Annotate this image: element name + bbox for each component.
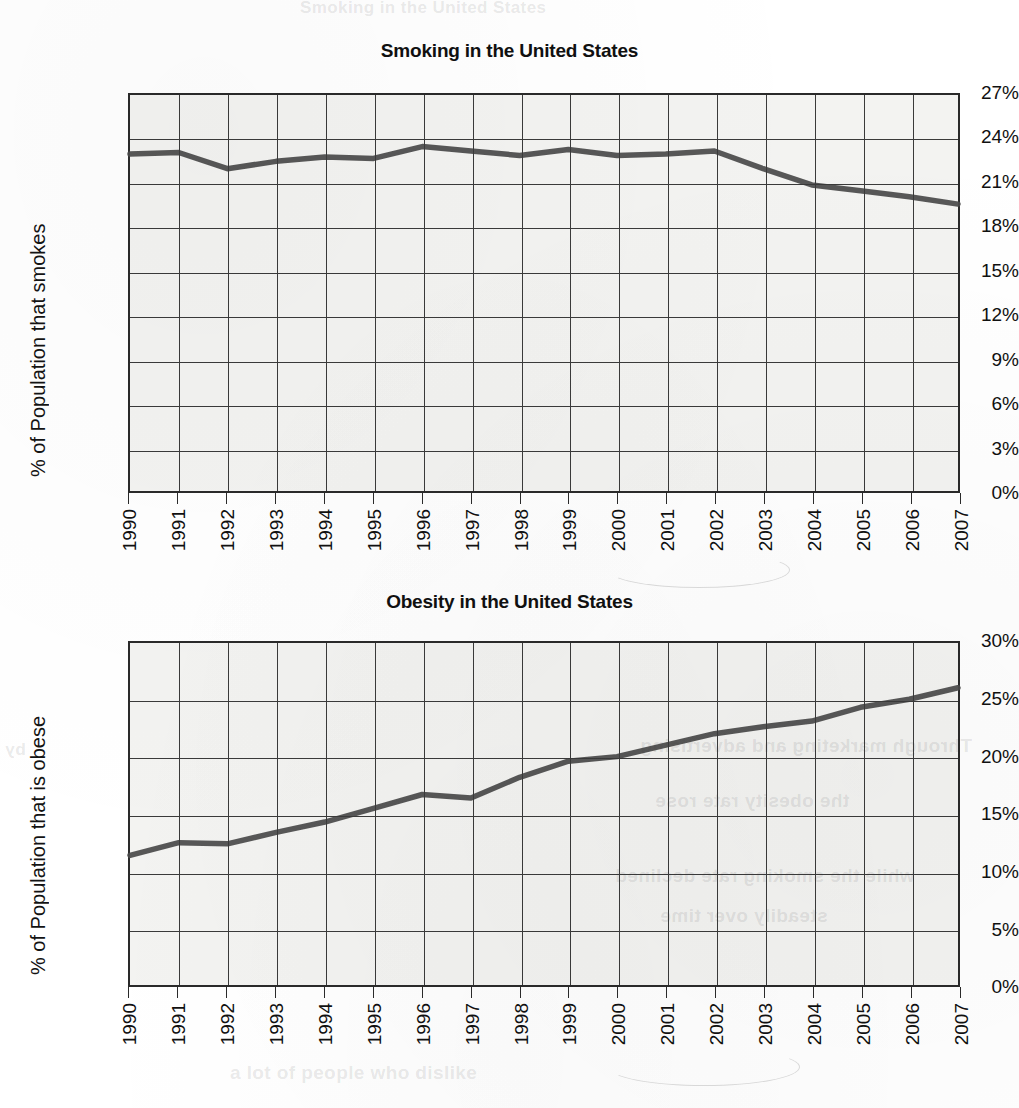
xtick-label: 1999	[559, 1003, 581, 1045]
gridline-vertical	[179, 643, 180, 985]
xtick-label: 2005	[853, 509, 875, 551]
xtick-label: 2000	[608, 509, 630, 551]
xtick-label: 2001	[657, 1003, 679, 1045]
scan-smudge-obesity	[608, 1048, 800, 1086]
x-tickmark	[177, 987, 178, 998]
gridline-vertical	[913, 95, 914, 491]
x-tickmark	[128, 987, 129, 998]
gridline-horizontal	[130, 362, 958, 363]
gridline-vertical	[766, 643, 767, 985]
gridline-vertical	[473, 643, 474, 985]
x-tickmark	[715, 493, 716, 504]
xtick-label: 1991	[168, 509, 190, 551]
gridline-vertical	[473, 95, 474, 491]
x-tickmark	[960, 493, 961, 504]
xtick-label: 2005	[853, 1003, 875, 1045]
gridline-vertical	[522, 643, 523, 985]
xtick-label: 1993	[266, 1003, 288, 1045]
gridline-vertical	[424, 95, 425, 491]
x-tickmark	[275, 987, 276, 998]
x-tickmark	[715, 987, 716, 998]
xtick-label: 1992	[217, 1003, 239, 1045]
gridline-horizontal	[130, 228, 958, 229]
scan-smudge-smoking	[608, 552, 790, 588]
xtick-label: 2002	[706, 509, 728, 551]
xtick-label: 2000	[608, 1003, 630, 1045]
xtick-label: 1997	[462, 509, 484, 551]
gridline-vertical	[375, 643, 376, 985]
y-axis-title-smoking: % of Population that smokes	[27, 190, 50, 510]
gridline-vertical	[668, 95, 669, 491]
xtick-label: 2007	[951, 1003, 973, 1045]
gridline-horizontal	[130, 451, 958, 452]
gridline-vertical	[277, 95, 278, 491]
x-tickmark	[226, 493, 227, 504]
gridline-vertical	[326, 95, 327, 491]
bleedthrough-text-bottom: a lot of people who dislike	[230, 1062, 477, 1084]
gridline-vertical	[228, 95, 229, 491]
x-tickmark	[813, 493, 814, 504]
xtick-label: 1996	[413, 509, 435, 551]
x-tickmark	[373, 987, 374, 998]
gridline-vertical	[668, 643, 669, 985]
x-tickmark	[568, 987, 569, 998]
x-tickmark	[764, 987, 765, 998]
xtick-label: 1998	[511, 509, 533, 551]
chart-title-smoking: Smoking in the United States	[0, 40, 1019, 62]
xtick-label: 2004	[804, 1003, 826, 1045]
x-tickmark	[422, 987, 423, 998]
xtick-label: 1994	[315, 1003, 337, 1045]
x-tickmark	[911, 987, 912, 998]
xtick-label: 1992	[217, 509, 239, 551]
gridline-vertical	[619, 95, 620, 491]
gridline-vertical	[277, 643, 278, 985]
xtick-label: 2006	[902, 509, 924, 551]
x-tickmark	[862, 987, 863, 998]
x-tickmark	[177, 493, 178, 504]
xtick-label: 1994	[315, 509, 337, 551]
xtick-label: 2002	[706, 1003, 728, 1045]
xtick-label: 2001	[657, 509, 679, 551]
xtick-label: 2003	[755, 509, 777, 551]
x-tickmark	[422, 493, 423, 504]
x-tickmark	[960, 987, 961, 998]
bleedthrough-text-left: by	[5, 740, 26, 760]
x-tickmark	[813, 987, 814, 998]
xtick-label: 1990	[119, 1003, 141, 1045]
gridline-vertical	[326, 643, 327, 985]
xtick-label: 1998	[511, 1003, 533, 1045]
x-tickmark	[471, 493, 472, 504]
xtick-label: 1995	[364, 1003, 386, 1045]
series-line-smoking	[130, 95, 958, 493]
xtick-label: 1993	[266, 509, 288, 551]
gridline-horizontal	[130, 139, 958, 140]
x-tickmark	[617, 493, 618, 504]
xtick-label: 1991	[168, 1003, 190, 1045]
gridline-vertical	[375, 95, 376, 491]
plot-area-obesity	[128, 641, 960, 987]
x-tickmark	[666, 987, 667, 998]
x-tickmark	[324, 987, 325, 998]
gridline-vertical	[619, 643, 620, 985]
xtick-label: 1995	[364, 509, 386, 551]
gridline-horizontal	[130, 758, 958, 759]
x-tickmark	[911, 493, 912, 504]
x-tickmark	[128, 493, 129, 504]
x-tickmark	[862, 493, 863, 504]
x-tickmark	[275, 493, 276, 504]
gridline-vertical	[913, 643, 914, 985]
gridline-vertical	[815, 95, 816, 491]
x-tickmark	[520, 987, 521, 998]
x-tickmark	[373, 493, 374, 504]
xtick-label: 2004	[804, 509, 826, 551]
gridline-vertical	[815, 643, 816, 985]
x-tickmark	[764, 493, 765, 504]
plot-area-smoking	[128, 93, 960, 493]
gridline-vertical	[717, 643, 718, 985]
gridline-vertical	[864, 95, 865, 491]
gridline-horizontal	[130, 184, 958, 185]
x-tickmark	[471, 987, 472, 998]
xtick-label: 1996	[413, 1003, 435, 1045]
xtick-label: 2006	[902, 1003, 924, 1045]
gridline-vertical	[570, 643, 571, 985]
